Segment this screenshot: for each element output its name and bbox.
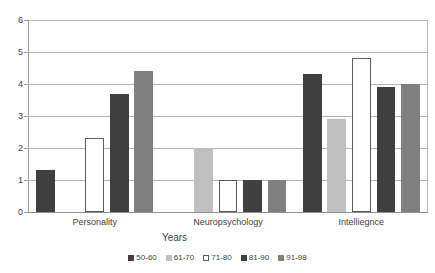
bar-slot — [325, 20, 350, 212]
legend-swatch-icon — [166, 255, 172, 261]
bar-slot — [82, 20, 107, 212]
bar-slot — [349, 20, 374, 212]
x-axis-category-labels: PersonalityNeuropsychologyIntelliegnce — [28, 216, 428, 230]
bar[interactable] — [36, 170, 55, 212]
bar-chart: 0123456 PersonalityNeuropsychologyIntell… — [0, 0, 435, 273]
y-axis-tick-label: 0 — [0, 208, 23, 217]
y-axis-tick-label: 5 — [0, 48, 23, 57]
bar-slot — [240, 20, 265, 212]
bar[interactable] — [243, 180, 262, 212]
legend-label: 71-80 — [211, 253, 231, 263]
legend-label: 81-90 — [249, 253, 269, 263]
legend-item[interactable]: 81-90 — [241, 253, 269, 263]
x-axis-category-label: Personality — [28, 216, 161, 230]
y-axis-tick-label: 2 — [0, 144, 23, 153]
legend-swatch-icon — [203, 255, 209, 261]
bar[interactable] — [110, 94, 129, 212]
y-axis: 0123456 — [0, 20, 23, 212]
bar[interactable] — [352, 58, 371, 212]
bar-slot — [216, 20, 241, 212]
bar[interactable] — [401, 84, 420, 212]
legend-item[interactable]: 50-60 — [128, 253, 156, 263]
axis-baseline — [28, 212, 428, 213]
x-axis-title: Years — [0, 232, 435, 244]
y-axis-tick-label: 6 — [0, 16, 23, 25]
bar[interactable] — [268, 180, 287, 212]
bar-slot — [265, 20, 290, 212]
bar[interactable] — [219, 180, 238, 212]
legend: 50-6061-7071-8081-9091-98 — [0, 251, 435, 265]
legend-swatch-icon — [278, 255, 284, 261]
bar[interactable] — [327, 119, 346, 212]
legend-label: 50-60 — [136, 253, 156, 263]
bar[interactable] — [134, 71, 153, 212]
bar[interactable] — [85, 138, 104, 212]
bar-group — [28, 20, 161, 212]
x-axis-category-label: Neuropsychology — [161, 216, 294, 230]
legend-item[interactable]: 71-80 — [203, 253, 231, 263]
x-axis-category-label: Intelliegnce — [295, 216, 428, 230]
bar-slot — [33, 20, 58, 212]
bar-slot — [300, 20, 325, 212]
legend-item[interactable]: 61-70 — [166, 253, 194, 263]
legend-label: 91-98 — [286, 253, 306, 263]
bar-slot — [107, 20, 132, 212]
legend-swatch-icon — [241, 255, 247, 261]
legend-swatch-icon — [128, 255, 134, 261]
bar-slot — [131, 20, 156, 212]
bar-group — [295, 20, 428, 212]
bar[interactable] — [377, 87, 396, 212]
y-axis-tick-label: 3 — [0, 112, 23, 121]
y-axis-tick-label: 1 — [0, 176, 23, 185]
bar-groups — [28, 20, 428, 212]
bar-slot — [191, 20, 216, 212]
plot-area — [28, 20, 428, 212]
bar-slot — [374, 20, 399, 212]
y-axis-tick-label: 4 — [0, 80, 23, 89]
bar-slot — [398, 20, 423, 212]
bar[interactable] — [194, 148, 213, 212]
bar-slot — [167, 20, 192, 212]
legend-item[interactable]: 91-98 — [278, 253, 306, 263]
bar[interactable] — [303, 74, 322, 212]
legend-label: 61-70 — [174, 253, 194, 263]
bar-slot — [58, 20, 83, 212]
bar-group — [161, 20, 294, 212]
